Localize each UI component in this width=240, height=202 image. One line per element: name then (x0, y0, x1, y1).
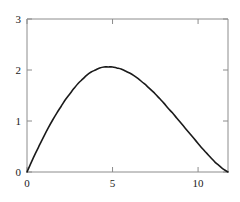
y-tick-label: 0 (1, 167, 21, 178)
y-tick-label: 2 (1, 65, 21, 76)
plot-canvas (0, 0, 240, 202)
y-tick-label: 3 (1, 14, 21, 25)
data-series-group (27, 67, 228, 172)
y-tick-label: 1 (1, 116, 21, 127)
y-axis-ticks (27, 19, 228, 172)
x-tick-label: 5 (93, 178, 133, 189)
series-curve-line (27, 67, 228, 172)
x-tick-label: 10 (178, 178, 218, 189)
x-tick-label: 0 (7, 178, 47, 189)
axes-frame-path (27, 19, 228, 172)
chart-figure: 0510 0123 (0, 0, 240, 202)
axes-frame (27, 19, 228, 172)
x-axis-ticks (27, 19, 198, 172)
